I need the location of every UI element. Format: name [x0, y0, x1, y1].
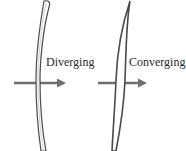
converging-label: Converging [129, 56, 185, 68]
lens-diagram: Diverging Converging [0, 0, 186, 151]
converging-arrow-head [138, 79, 147, 88]
diverging-arrow-head [57, 79, 66, 88]
diverging-lens-group [14, 1, 66, 151]
converging-lens-group [98, 1, 147, 151]
diverging-label: Diverging [46, 56, 94, 68]
converging-lens-icon [112, 1, 130, 151]
